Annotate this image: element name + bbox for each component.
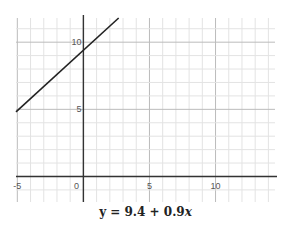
equation-variable: x bbox=[185, 205, 192, 219]
equation-caption: y = 9.4 + 0.9x bbox=[0, 205, 291, 219]
series-line bbox=[16, 18, 119, 112]
y-tick-label: 5 bbox=[76, 104, 81, 114]
equation-text: y = 9.4 + 0.9 bbox=[99, 205, 185, 219]
y-tick-label: 10 bbox=[71, 37, 81, 47]
x-tick-label: 0 bbox=[74, 181, 79, 191]
x-tick-label: -5 bbox=[13, 181, 21, 191]
line-chart: -50510510 bbox=[0, 0, 291, 232]
x-tick-label: 5 bbox=[147, 181, 152, 191]
x-tick-label: 10 bbox=[211, 181, 221, 191]
